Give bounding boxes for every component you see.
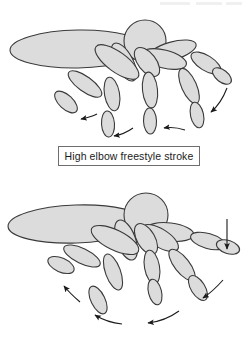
arm3-hand-segment	[188, 101, 206, 129]
motion-arrow-2	[164, 127, 185, 130]
arm0-hand-segment	[51, 87, 81, 116]
arm1-hand-segment	[101, 111, 116, 138]
arm1-fore-segment	[99, 252, 126, 293]
motion-arrow-1	[95, 315, 122, 324]
motion-arrow-0	[81, 114, 97, 119]
straight-arm-figure-drawing	[0, 172, 246, 344]
caption-text: High elbow freestyle stroke	[65, 150, 194, 162]
page-root: High elbow freestyle stroke	[0, 0, 246, 344]
arm3-fore-segment	[174, 66, 203, 107]
swimmer-torso-group	[7, 193, 241, 317]
motion-arrow-2	[148, 311, 179, 323]
arm2-fore-segment	[141, 71, 160, 108]
caption-high-elbow-freestyle: High elbow freestyle stroke	[58, 146, 200, 166]
motion-arrow-3	[211, 88, 227, 112]
arm2-hand-segment	[146, 278, 165, 306]
arm1-fore-segment	[102, 76, 123, 112]
arm2-hand-segment	[143, 108, 157, 134]
swimmer-torso-group	[10, 20, 235, 137]
figure-straight-arm: Straight arm stroke	[0, 172, 246, 344]
figure-high-elbow-freestyle: High elbow freestyle stroke	[0, 0, 246, 172]
arm1-hand-segment	[85, 283, 111, 316]
motion-arrow-0	[64, 286, 80, 302]
motion-arrow-1	[114, 128, 133, 136]
